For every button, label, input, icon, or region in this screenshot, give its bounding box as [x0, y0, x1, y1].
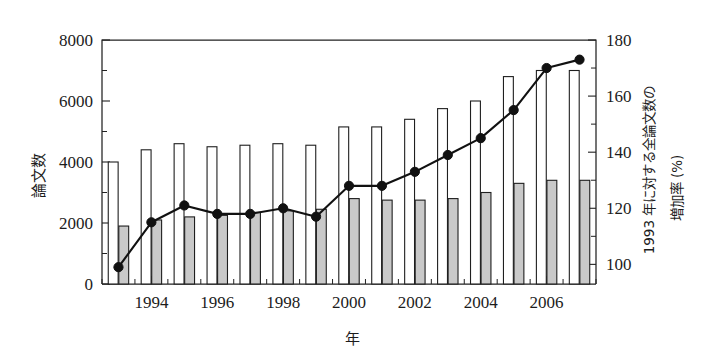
chart-canvas: 02000400060008000 100120140160180 199419… — [0, 0, 712, 363]
x-tick-label: 1994 — [134, 293, 169, 312]
bar-open — [339, 127, 349, 284]
data-point-marker — [509, 106, 518, 115]
x-tick-label: 1996 — [200, 293, 234, 312]
data-point-marker — [147, 218, 156, 227]
bar-filled — [152, 220, 162, 284]
x-tick-label: 2002 — [398, 293, 432, 312]
bar-open — [141, 150, 151, 284]
bar-open — [438, 109, 448, 284]
bar-open — [405, 119, 415, 284]
data-point-marker — [246, 209, 255, 218]
data-point-marker — [377, 181, 386, 190]
bar-filled — [448, 199, 458, 284]
y-axis-title-right-line2: 増加率 (%) — [669, 155, 685, 222]
bar-filled — [283, 211, 293, 284]
bar-filled — [415, 200, 425, 284]
left-tick-label: 4000 — [59, 153, 93, 172]
bar-filled — [185, 217, 195, 284]
bar-filled — [382, 200, 392, 284]
y-axis-title-right-line1: 1993 年に対する全論文数の — [641, 86, 657, 255]
data-point-marker — [114, 263, 123, 272]
data-point-marker — [279, 204, 288, 213]
bar-filled — [514, 183, 524, 284]
bar-filled — [481, 193, 491, 285]
bar-open — [536, 71, 546, 285]
y-axis-title-left: 論文数 — [30, 153, 48, 198]
data-point-marker — [344, 181, 353, 190]
x-axis-title: 年 — [345, 330, 360, 348]
chart-figure: 02000400060008000 100120140160180 199419… — [0, 0, 712, 363]
data-point-marker — [180, 201, 189, 210]
bar-filled — [349, 199, 359, 284]
data-point-marker — [311, 212, 320, 221]
bar-open — [273, 144, 283, 284]
bar-filled — [580, 180, 590, 284]
x-tick-label: 2006 — [530, 293, 564, 312]
x-tick-label: 2000 — [332, 293, 366, 312]
right-tick-label: 140 — [606, 143, 632, 162]
data-point-marker — [575, 55, 584, 64]
bar-open — [372, 127, 382, 284]
bar-filled — [547, 180, 557, 284]
bar-filled — [251, 212, 261, 284]
right-tick-label: 120 — [606, 199, 632, 218]
data-point-marker — [443, 150, 452, 159]
data-point-marker — [542, 63, 551, 72]
data-point-marker — [476, 134, 485, 143]
data-point-marker — [410, 167, 419, 176]
left-tick-label: 8000 — [59, 31, 93, 50]
right-tick-label: 160 — [606, 87, 632, 106]
right-tick-label: 180 — [606, 31, 632, 50]
right-tick-label: 100 — [606, 255, 632, 274]
data-point-marker — [213, 209, 222, 218]
left-tick-label: 2000 — [59, 214, 93, 233]
x-tick-label: 1998 — [266, 293, 300, 312]
bar-open — [471, 101, 481, 284]
left-tick-label: 6000 — [59, 92, 93, 111]
left-tick-label: 0 — [85, 275, 94, 294]
bar-open — [569, 71, 579, 285]
bar-filled — [218, 215, 228, 284]
bar-open — [174, 144, 184, 284]
x-tick-label: 2004 — [464, 293, 499, 312]
